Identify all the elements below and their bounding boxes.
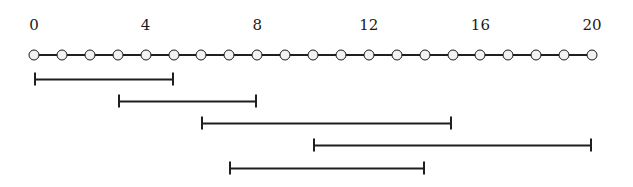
axis-segment [38,54,58,56]
number-line-node-1 [56,50,67,61]
number-line-node-15 [447,50,458,61]
number-line-node-10 [308,50,319,61]
axis-segment [373,54,393,56]
axis-segment [345,54,365,56]
interval-end-cap [172,73,174,86]
axis-segment [289,54,309,56]
tick-label-12: 12 [359,18,378,33]
axis-segment [568,54,588,56]
tick-label-16: 16 [471,18,490,33]
interval-bar-1 [34,73,174,86]
axis-segment [94,54,114,56]
axis-segment [261,54,281,56]
interval-start-cap [313,139,315,152]
axis-segment [484,54,504,56]
interval-span [229,167,424,169]
axis-segment [429,54,449,56]
axis-segment [205,54,225,56]
number-line-figure: 048121620 [0,0,633,187]
interval-end-cap [590,139,592,152]
axis-segment [122,54,142,56]
interval-span [118,100,258,102]
interval-start-cap [229,162,231,175]
interval-end-cap [255,95,257,108]
interval-span [201,122,452,124]
number-line-node-18 [531,50,542,61]
interval-bar-2 [118,95,258,108]
tick-label-8: 8 [252,18,262,33]
interval-span [313,144,592,146]
number-line-node-12 [363,50,374,61]
axis-segment [401,54,421,56]
axis-segment [233,54,253,56]
number-line-node-7 [224,50,235,61]
interval-end-cap [423,162,425,175]
number-line-node-9 [280,50,291,61]
number-line-node-8 [252,50,263,61]
number-line-node-11 [335,50,346,61]
number-line-node-2 [84,50,95,61]
interval-bar-4 [313,139,592,152]
tick-label-20: 20 [582,18,601,33]
interval-start-cap [34,73,36,86]
interval-bar-3 [201,117,452,130]
number-line-node-13 [391,50,402,61]
axis-segment [457,54,477,56]
axis-segment [66,54,86,56]
axis-segment [512,54,532,56]
axis-segment [178,54,198,56]
number-line-node-20 [587,50,598,61]
interval-span [34,78,174,80]
number-line-node-6 [196,50,207,61]
number-line-node-14 [419,50,430,61]
axis-segment [150,54,170,56]
interval-bar-5 [229,162,424,175]
interval-start-cap [201,117,203,130]
number-line-node-4 [140,50,151,61]
interval-start-cap [118,95,120,108]
tick-label-4: 4 [141,18,151,33]
number-line-node-0 [29,50,40,61]
number-line-node-16 [475,50,486,61]
number-line-node-17 [503,50,514,61]
axis-segment [540,54,560,56]
axis-segment [317,54,337,56]
tick-label-0: 0 [29,18,39,33]
interval-end-cap [450,117,452,130]
number-line-node-19 [559,50,570,61]
number-line-node-5 [168,50,179,61]
number-line-node-3 [112,50,123,61]
